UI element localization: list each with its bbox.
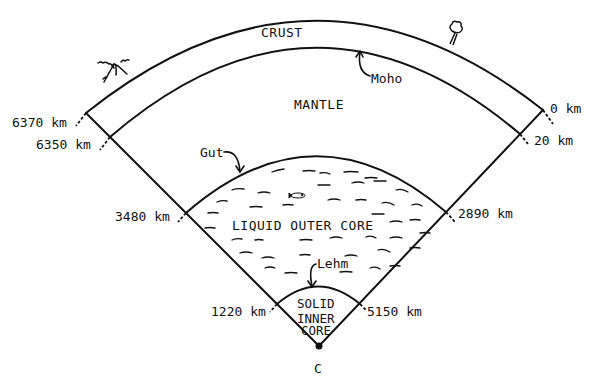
mantle-label: MANTLE — [294, 98, 344, 111]
depth-moho-label: 20 km — [534, 134, 573, 147]
moho-label: Moho — [371, 72, 402, 85]
crust-label: CRUST — [261, 26, 303, 39]
radius-icb-label: 1220 km — [211, 305, 266, 318]
radius-moho-label: 6350 km — [36, 138, 91, 151]
depth-cmb-label: 2890 km — [458, 207, 513, 220]
center-point — [316, 343, 323, 350]
tick-surface-left — [76, 113, 86, 126]
moho-arrow — [359, 52, 370, 76]
inner-core-label-line3: CORE — [301, 325, 331, 338]
center-label: C — [314, 362, 322, 375]
gutenberg-label: Gut — [200, 146, 223, 159]
radius-surface-label: 6370 km — [12, 116, 67, 129]
depth-icb-label: 5150 km — [367, 305, 422, 318]
outer-core-label: LIQUID OUTER CORE — [232, 219, 374, 232]
volcano-icon — [98, 60, 129, 82]
tick-moho-right — [520, 134, 528, 144]
lehmann-label: Lehm — [317, 257, 348, 270]
tick-icb-left — [270, 304, 277, 312]
earth-cross-section-diagram — [0, 0, 591, 386]
tick-icb-right — [360, 304, 366, 310]
depth-surface-label: 0 km — [550, 102, 581, 115]
radius-cmb-label: 3480 km — [115, 210, 170, 223]
fish-icon — [289, 193, 305, 198]
tree-icon — [450, 21, 462, 45]
tick-cmb-right — [446, 212, 455, 222]
moho-arc — [110, 48, 520, 137]
tick-cmb-left — [178, 213, 186, 222]
inner-core-label-line1: SOLID — [297, 298, 335, 311]
core-mantle-boundary-arc — [186, 156, 446, 213]
tick-moho-left — [100, 137, 110, 150]
